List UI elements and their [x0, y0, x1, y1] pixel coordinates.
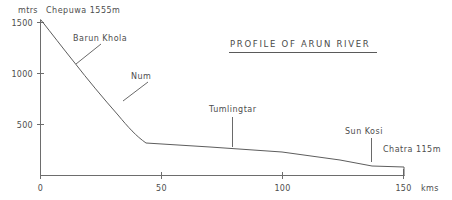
x-tick-label-0: 0	[38, 184, 43, 193]
x-tick-marks	[41, 169, 404, 179]
y-tick-labels: 1500 1000 500	[11, 19, 33, 130]
river-profile-figure: 1500 1000 500 0 50 100 150 mtrs kms Chep…	[0, 0, 452, 200]
x-tick-label-150: 150	[395, 184, 411, 193]
annotation-sun-kosi: Sun Kosi	[345, 127, 383, 136]
annotation-labels: Chepuwa 1555m Barun Khola Num Tumlingtar…	[46, 6, 441, 154]
x-tick-labels: 0 50 100 150	[38, 184, 412, 193]
chart-title-group: PROFILE OF ARUN RIVER	[229, 39, 377, 53]
annotation-num: Num	[131, 72, 151, 81]
x-axis-unit-label: kms	[421, 184, 439, 193]
x-tick-label-100: 100	[274, 184, 290, 193]
num-leader-line	[123, 82, 148, 101]
chart-title: PROFILE OF ARUN RIVER	[230, 39, 370, 49]
x-tick-label-50: 50	[156, 184, 167, 193]
barun-khola-leader-line	[76, 44, 101, 64]
annotation-chepuwa: Chepuwa 1555m	[46, 6, 120, 15]
annotation-tumlingtar: Tumlingtar	[208, 105, 257, 114]
annotation-barun-khola: Barun Khola	[73, 34, 127, 43]
profile-chart: 1500 1000 500 0 50 100 150 mtrs kms Chep…	[0, 0, 452, 200]
y-tick-label-1000: 1000	[11, 70, 33, 79]
y-tick-label-500: 500	[17, 121, 33, 130]
y-axis-unit-label: mtrs	[18, 6, 38, 15]
y-tick-label-1500: 1500	[11, 19, 33, 28]
annotation-chatra: Chatra 115m	[383, 145, 441, 154]
annotation-leaders	[76, 44, 372, 162]
